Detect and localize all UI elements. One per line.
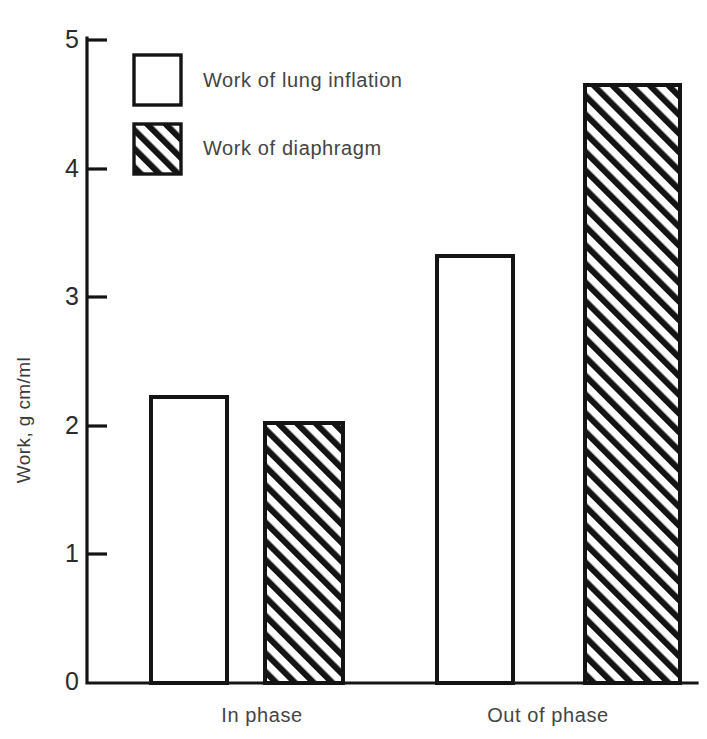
bar-out-of-phase-lung-inflation — [437, 256, 513, 683]
y-tick-label-2: 2 — [65, 411, 79, 439]
legend-swatch-hatched-icon — [134, 124, 181, 174]
x-category-label-out-of-phase: Out of phase — [487, 704, 609, 726]
y-tick-0: 0 — [65, 667, 79, 695]
legend-swatch-open-icon — [134, 55, 181, 105]
legend-label-lung-inflation: Work of lung inflation — [203, 69, 403, 91]
legend-label-diaphragm: Work of diaphragm — [203, 137, 382, 159]
bar-out-of-phase-diaphragm — [585, 85, 680, 683]
chart-container: 5 4 3 2 1 0 Work, g cm/ml — [0, 0, 707, 739]
bar-in-phase-diaphragm — [265, 423, 343, 683]
x-category-label-in-phase: In phase — [221, 704, 303, 726]
y-axis-title: Work, g cm/ml — [13, 357, 34, 483]
bar-chart: 5 4 3 2 1 0 Work, g cm/ml — [0, 0, 707, 739]
y-tick-label-4: 4 — [65, 154, 79, 182]
bar-in-phase-lung-inflation — [151, 397, 227, 683]
y-tick-label-0: 0 — [65, 667, 79, 695]
y-tick-label-1: 1 — [65, 539, 79, 567]
y-tick-label-5: 5 — [65, 25, 79, 53]
y-tick-label-3: 3 — [65, 282, 79, 310]
